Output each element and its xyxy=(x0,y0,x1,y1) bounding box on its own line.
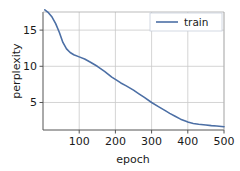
x-tick-label-100: 100 xyxy=(69,135,90,148)
y-tick-label-15: 15 xyxy=(23,24,37,37)
line-chart: 100200300400500 51015 epoch perplexity t… xyxy=(0,0,240,171)
x-axis-title: epoch xyxy=(116,153,150,166)
x-tick-label-200: 200 xyxy=(105,135,126,148)
chart-figure: 100200300400500 51015 epoch perplexity t… xyxy=(0,0,240,171)
y-tick-label-10: 10 xyxy=(23,60,37,73)
legend[interactable]: train xyxy=(150,13,222,31)
y-axis-title: perplexity xyxy=(10,43,23,99)
x-tick-label-300: 300 xyxy=(141,135,162,148)
x-tick-label-500: 500 xyxy=(214,135,235,148)
x-tick-label-400: 400 xyxy=(177,135,198,148)
y-tick-label-5: 5 xyxy=(30,96,37,109)
legend-label-train: train xyxy=(184,16,208,28)
